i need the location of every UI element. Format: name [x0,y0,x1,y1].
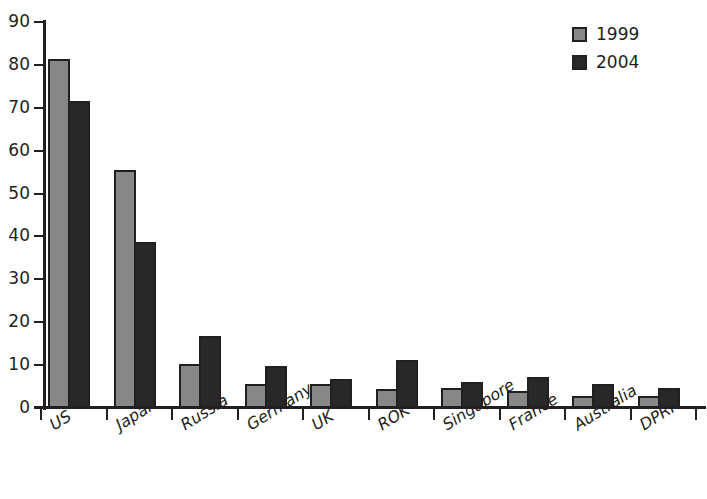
legend-swatch-2004 [572,55,587,70]
x-tick-us [40,409,42,420]
x-tick-dprk [630,409,632,420]
x-tick-france [499,409,501,420]
legend-swatch-1999 [572,27,587,42]
bar-group-australia [572,384,614,408]
x-tick-singapore [433,409,435,420]
legend-label-2004: 2004 [596,54,639,71]
y-tick-label-10: 10 [0,356,30,373]
y-tick-60 [34,150,44,152]
bar-1999-rok [376,389,398,408]
bar-1999-uk [310,384,332,408]
x-tick-germany [237,409,239,420]
x-tick-japan [106,409,108,420]
bar-group-uk [310,379,352,408]
y-tick-50 [34,193,44,195]
y-tick-label-50: 50 [0,185,30,202]
y-tick-label-20: 20 [0,313,30,330]
bar-group-us [48,59,90,408]
bar-2004-japan [134,242,156,408]
bar-1999-germany [245,384,267,408]
bar-2004-russia [199,336,221,408]
y-tick-label-80: 80 [0,56,30,73]
y-tick-80 [34,64,44,66]
x-tick-australia [564,409,566,420]
bar-group-rok [376,360,418,408]
x-tick-end [695,409,697,420]
bar-1999-australia [572,396,594,408]
bar-1999-russia [179,364,201,408]
x-tick-uk [302,409,304,420]
y-tick-label-70: 70 [0,99,30,116]
y-tick-label-40: 40 [0,227,30,244]
bar-1999-us [48,59,70,408]
bar-1999-japan [114,170,136,408]
bar-1999-france [507,391,529,408]
y-tick-30 [34,278,44,280]
bar-group-russia [179,336,221,408]
y-tick-40 [34,235,44,237]
legend-item-2004: 2004 [572,54,639,71]
x-label-us: US [46,406,75,434]
bar-group-japan [114,170,156,408]
bar-1999-dprk [638,396,660,408]
y-tick-10 [34,364,44,366]
bar-2004-uk [330,379,352,408]
y-tick-label-30: 30 [0,270,30,287]
bar-2004-dprk [658,388,680,408]
legend-label-1999: 1999 [596,26,639,43]
x-label-uk: UK [308,406,337,434]
bar-group-dprk [638,388,680,408]
bar-2004-france [527,377,549,408]
bar-2004-us [68,101,90,408]
chart-legend: 1999 2004 [572,26,639,82]
y-tick-70 [34,107,44,109]
bar-chart: 0102030405060708090 USJapanRussiaGermany… [0,0,707,499]
bar-group-france [507,377,549,408]
bar-2004-singapore [461,382,483,408]
bar-group-germany [245,366,287,408]
bar-1999-singapore [441,388,463,408]
bar-2004-germany [265,366,287,408]
x-tick-russia [171,409,173,420]
x-tick-rok [368,409,370,420]
bar-2004-rok [396,360,418,408]
y-tick-label-0: 0 [0,399,30,416]
y-tick-label-90: 90 [0,13,30,30]
bar-group-singapore [441,382,483,408]
bar-2004-australia [592,384,614,408]
y-tick-90 [34,21,44,23]
y-tick-label-60: 60 [0,142,30,159]
y-tick-20 [34,321,44,323]
legend-item-1999: 1999 [572,26,639,43]
